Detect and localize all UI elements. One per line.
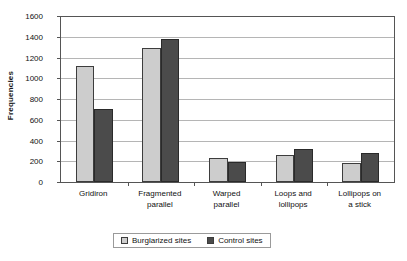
bar <box>142 48 161 182</box>
x-tick-mark <box>327 182 328 186</box>
legend-label: Control sites <box>218 236 262 245</box>
y-tick-mark <box>57 182 61 183</box>
y-tick-label: 1600 <box>3 12 43 21</box>
bars-layer <box>61 16 394 182</box>
x-axis-label-line: Lollipops on <box>326 189 393 200</box>
x-tick-mark <box>261 182 262 186</box>
legend-entry[interactable]: Burglarized sites <box>121 236 191 245</box>
y-tick-label: 1000 <box>3 74 43 83</box>
bar <box>209 158 228 182</box>
x-tick-mark <box>194 182 195 186</box>
x-axis-labels: GridironFragmentedparallelWarpedparallel… <box>60 189 395 221</box>
plot-area: 02004006008001000120014001600 <box>60 16 395 183</box>
bar-group <box>76 16 113 182</box>
y-tick-label: 400 <box>3 136 43 145</box>
bar <box>276 155 295 182</box>
y-tick-label: 800 <box>3 95 43 104</box>
bar <box>76 66 95 182</box>
bar <box>294 149 313 182</box>
x-axis-label-line: Gridiron <box>60 189 127 200</box>
bar-group <box>209 16 246 182</box>
legend-label: Burglarized sites <box>132 236 191 245</box>
chart-legend: Burglarized sitesControl sites <box>113 233 271 248</box>
x-axis-label: Loops andlollipops <box>260 189 327 210</box>
x-axis-label: Fragmentedparallel <box>127 189 194 210</box>
bar <box>94 109 113 182</box>
x-tick-mark <box>128 182 129 186</box>
x-axis-label-line: Warped <box>193 189 260 200</box>
legend-swatch-icon <box>207 237 214 244</box>
x-axis-label-line: a stick <box>326 200 393 211</box>
y-tick-label: 200 <box>3 157 43 166</box>
bar <box>361 153 380 182</box>
bar-chart: Frequencies 0200400600800100012001400160… <box>0 0 407 261</box>
y-tick-label: 0 <box>3 178 43 187</box>
bar-group <box>142 16 179 182</box>
x-axis-label: Gridiron <box>60 189 127 200</box>
bar-group <box>342 16 379 182</box>
bar <box>342 163 361 183</box>
x-axis-label: Lollipops ona stick <box>326 189 393 210</box>
bar <box>161 39 180 182</box>
legend-swatch-icon <box>121 237 128 244</box>
y-tick-label: 1400 <box>3 32 43 41</box>
x-axis-label-line: parallel <box>127 200 194 211</box>
x-axis-label-line: Fragmented <box>127 189 194 200</box>
bar <box>228 162 247 182</box>
y-tick-label: 600 <box>3 115 43 124</box>
bar-group <box>276 16 313 182</box>
x-axis-label: Warpedparallel <box>193 189 260 210</box>
x-axis-label-line: lollipops <box>260 200 327 211</box>
y-tick-label: 1200 <box>3 53 43 62</box>
x-axis-label-line: Loops and <box>260 189 327 200</box>
legend-entry[interactable]: Control sites <box>207 236 262 245</box>
x-axis-label-line: parallel <box>193 200 260 211</box>
